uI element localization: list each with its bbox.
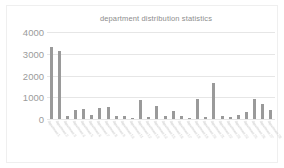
bar (82, 109, 85, 119)
bar (172, 111, 175, 119)
y-axis-tick-label: 3000 (23, 48, 44, 59)
bar (123, 116, 126, 119)
y-axis-tick-label: 1000 (23, 92, 44, 103)
y-axis-tick-label: 2000 (23, 70, 44, 81)
bar (164, 116, 167, 119)
bar-series (47, 32, 275, 119)
y-axis-tick-label: 4000 (23, 27, 44, 38)
bar (261, 104, 264, 119)
bar (237, 115, 240, 119)
bar (50, 47, 53, 119)
chart-container: department distribution statistics 40003… (6, 5, 278, 163)
bar (115, 116, 118, 119)
bar (196, 99, 199, 119)
bar (139, 100, 142, 119)
bar (212, 83, 215, 119)
bar (180, 116, 183, 119)
y-axis-tick-label: 0 (39, 114, 44, 125)
bar (107, 107, 110, 119)
chart-title: department distribution statistics (21, 14, 284, 23)
bar (221, 116, 224, 119)
bar (253, 99, 256, 119)
bar (58, 51, 61, 119)
bar (269, 110, 272, 119)
bar (229, 117, 232, 119)
bar (66, 116, 69, 119)
plot-area (47, 32, 275, 119)
x-axis: department 1department 2department 3depa… (47, 120, 275, 164)
bar (245, 112, 248, 119)
y-axis: 40003000200010000 (11, 32, 47, 119)
bar (74, 110, 77, 119)
bar (98, 108, 101, 119)
bar (155, 106, 158, 119)
bar (90, 115, 93, 119)
